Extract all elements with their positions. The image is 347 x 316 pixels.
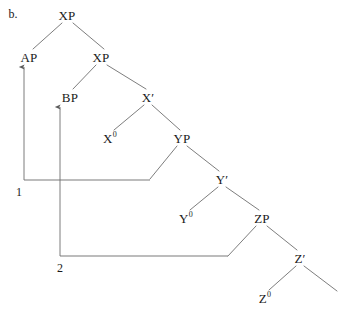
- node-prime-mark: ′: [225, 172, 228, 187]
- tree-branch-x-bar-to-yp: [152, 105, 180, 130]
- tree-node-yp: YP: [173, 132, 190, 145]
- movement-index-1: 1: [16, 186, 22, 198]
- node-base-label: Y: [179, 211, 189, 226]
- tree-node-x-bar: X′: [142, 91, 155, 104]
- tree-branch-x-bar-to-x-zero: [114, 105, 144, 130]
- trace-lines: [24, 180, 228, 256]
- tree-branch-zp-to-trace2: [228, 226, 256, 256]
- tree-branch-yp-to-trace1: [150, 146, 177, 179]
- node-superscript: 0: [189, 210, 193, 219]
- tree-lines-svg: [0, 0, 347, 316]
- node-superscript: 0: [267, 290, 271, 299]
- tree-branch-y-bar-to-y-zero: [190, 187, 218, 210]
- tree-node-ap: AP: [20, 51, 37, 64]
- tree-node-x-zero: X0: [103, 132, 117, 145]
- node-base-label: X: [103, 131, 113, 146]
- node-base-label: YP: [173, 131, 190, 146]
- node-base-label: Z: [294, 251, 302, 266]
- tree-branch-xp-to-x-bar: [107, 65, 146, 89]
- tree-node-zp: ZP: [254, 212, 270, 225]
- node-base-label: X: [142, 90, 152, 105]
- tree-branch-yp-to-y-bar: [187, 146, 219, 171]
- tree-node-xp-lower: XP: [92, 51, 109, 64]
- tree-node-bp: BP: [62, 91, 78, 104]
- node-superscript: 0: [113, 130, 117, 139]
- node-base-label: XP: [92, 50, 109, 65]
- tree-branch-xp-root-to-xp: [73, 23, 104, 49]
- tree-branch-xp-to-bp: [73, 65, 96, 89]
- node-base-label: ZP: [254, 211, 270, 226]
- node-base-label: BP: [62, 90, 78, 105]
- tree-branch-y-bar-to-zp: [226, 187, 259, 210]
- tree-node-z-bar: Z′: [294, 252, 305, 265]
- tree-branch-zp-to-z-bar: [267, 226, 297, 250]
- syntax-tree-figure: b. XPAPXPBPX′X0YPY′Y0ZPZ′Z0 12: [0, 0, 347, 316]
- node-prime-mark: ′: [151, 90, 154, 105]
- movement-paths: [24, 67, 60, 256]
- node-base-label: Z: [259, 291, 267, 306]
- tree-branch-z-bar-to-open: [304, 266, 337, 291]
- node-base-label: XP: [58, 8, 75, 23]
- tree-node-y-bar: Y′: [216, 173, 229, 186]
- node-base-label: AP: [20, 50, 37, 65]
- figure-letter: b.: [9, 8, 18, 20]
- tree-node-xp-root: XP: [58, 9, 75, 22]
- node-base-label: Y: [216, 172, 226, 187]
- tree-branch-xp-root-to-ap: [33, 23, 62, 49]
- tree-branch-z-bar-to-z-zero: [269, 266, 296, 290]
- node-prime-mark: ′: [303, 251, 306, 266]
- movement-index-2: 2: [57, 262, 63, 274]
- branch-lines: [33, 23, 337, 291]
- tree-node-z-zero: Z0: [259, 292, 271, 305]
- tree-node-y-zero: Y0: [179, 212, 193, 225]
